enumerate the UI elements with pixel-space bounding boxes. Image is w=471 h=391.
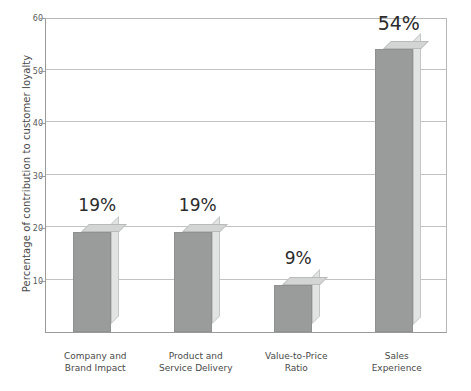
plot-area [45, 18, 447, 333]
bar[interactable] [375, 49, 413, 333]
y-tick-label-60: 60 [13, 14, 43, 23]
y-tick-label-50: 50 [13, 66, 43, 75]
x-tick-label-line: Company and [64, 350, 127, 362]
x-tick-label-line: Service Delivery [159, 362, 232, 374]
bar-top-face [182, 224, 228, 232]
bar-top-face [282, 277, 328, 285]
x-tick-label: Product andService Delivery [159, 350, 232, 374]
bar-side-face [111, 216, 119, 324]
y-tick-label-40: 40 [13, 119, 43, 128]
y-tick-label-10: 10 [13, 276, 43, 285]
bar[interactable] [73, 232, 111, 332]
y-tick-label-30: 30 [13, 171, 43, 180]
bar-front-face [174, 232, 212, 332]
bar-top-face [81, 224, 127, 232]
x-tick-label-line: Experience [372, 362, 422, 374]
data-label: 19% [78, 195, 116, 215]
bar-front-face [375, 49, 413, 333]
bar-side-face [212, 216, 220, 324]
bar[interactable] [274, 285, 312, 332]
data-label: 54% [378, 12, 420, 34]
data-label: 19% [179, 195, 217, 215]
x-tick-label-line: Ratio [265, 362, 327, 374]
bar[interactable] [174, 232, 212, 332]
bar-front-face [73, 232, 111, 332]
x-tick-label: Company andBrand Impact [64, 350, 127, 374]
data-label: 9% [285, 248, 312, 268]
y-tick-label-20: 20 [13, 224, 43, 233]
x-tick-label-line: Sales [372, 350, 422, 362]
bar-front-face [274, 285, 312, 332]
x-tick-label: SalesExperience [372, 350, 422, 374]
x-tick-label-line: Value-to-Price [265, 350, 327, 362]
bar-chart: Percentage of contribution to customer l… [0, 0, 471, 391]
x-tick-label-line: Product and [159, 350, 232, 362]
bar-side-face [413, 33, 421, 325]
bar-top-face [383, 41, 429, 49]
x-tick-label-line: Brand Impact [64, 362, 127, 374]
x-tick-label: Value-to-PriceRatio [265, 350, 327, 374]
